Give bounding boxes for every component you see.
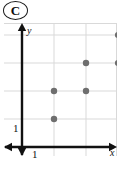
part-label-letter: C: [11, 4, 20, 17]
y-axis-tick-label: 1: [13, 123, 19, 134]
scatter-plot-svg: [4, 23, 117, 156]
coordinate-plane: [4, 23, 117, 156]
y-axis-label: y: [27, 26, 31, 36]
x-axis-tick-label: 1: [32, 149, 38, 160]
data-points: [51, 32, 117, 122]
figure-screenshot: C y x 1 1: [0, 0, 122, 170]
axes: [4, 23, 117, 156]
x-axis-label: x: [110, 148, 114, 158]
part-label-badge: C: [3, 1, 28, 20]
